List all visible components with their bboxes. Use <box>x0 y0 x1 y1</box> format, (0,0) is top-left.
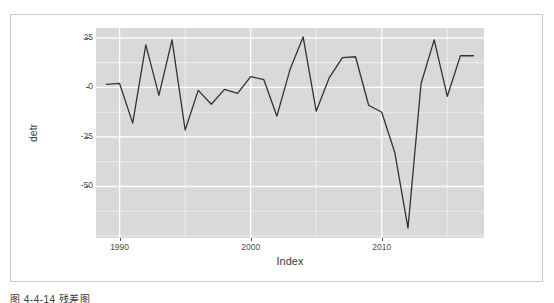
x-tick-mark <box>251 238 252 241</box>
x-axis-title: Index <box>96 255 484 267</box>
x-tick-mark <box>120 238 121 241</box>
x-tick-label: 2010 <box>360 243 404 252</box>
figure-caption: 图 4-4-14 残差图 <box>10 291 350 303</box>
x-axis-tick-labels: 199020002010 <box>11 15 544 283</box>
figure-frame: detr 250-25-50 199020002010 Index <box>10 14 543 282</box>
x-tick-mark <box>382 238 383 241</box>
chart-surface: detr 250-25-50 199020002010 Index <box>11 15 544 283</box>
x-tick-label: 2000 <box>229 243 273 252</box>
x-tick-label: 1990 <box>98 243 142 252</box>
